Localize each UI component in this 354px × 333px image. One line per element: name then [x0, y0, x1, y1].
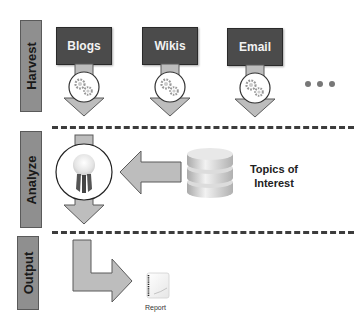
harvest-flow-wikis [142, 64, 198, 120]
source-box-blogs: Blogs [56, 27, 112, 65]
stage-divider-1 [52, 126, 354, 129]
left-arrow-icon [119, 150, 183, 196]
harvest-flow-email [227, 65, 283, 121]
database-icon [185, 146, 235, 200]
source-label-email: Email [239, 40, 271, 54]
source-label-blogs: Blogs [67, 39, 100, 53]
stage-bar-output: Output [17, 236, 39, 310]
stage-label-output: Output [21, 252, 36, 295]
source-label-wikis: Wikis [154, 39, 185, 53]
source-box-wikis: Wikis [142, 27, 198, 65]
l-arrow-icon [72, 239, 134, 304]
gears-icon [240, 73, 270, 103]
stage-bar-harvest: Harvest [20, 20, 42, 112]
harvest-flow-blogs [56, 64, 112, 120]
award-ribbon-icon [56, 144, 112, 200]
source-box-email: Email [227, 28, 283, 66]
stage-divider-2 [52, 231, 354, 234]
gears-icon [69, 72, 99, 102]
ellipsis-dots-icon [300, 78, 340, 90]
topics-of-interest-label: Topics of Interest [244, 162, 304, 190]
stage-label-harvest: Harvest [24, 42, 39, 90]
analyze-flow [56, 135, 116, 225]
gears-icon [155, 72, 185, 102]
stage-bar-analyze: Analyze [20, 131, 42, 228]
report-label: Report [145, 304, 166, 311]
report-document-icon [146, 272, 170, 299]
stage-label-analyze: Analyze [24, 155, 39, 204]
